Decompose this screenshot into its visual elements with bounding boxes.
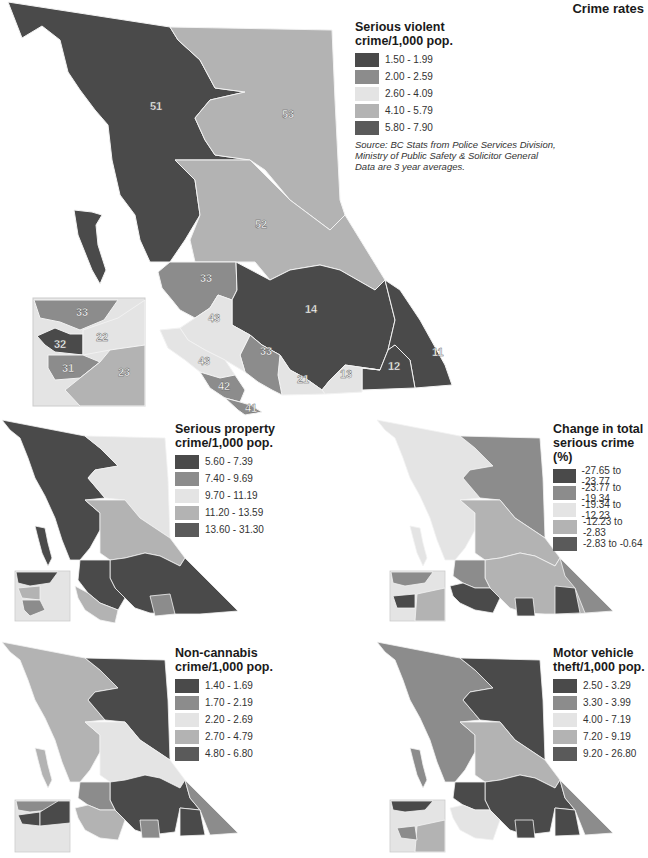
legend-non-cannabis: Non-cannabiscrime/1,000 pop. 1.40 - 1.69…: [175, 646, 273, 762]
legend-item: 7.40 - 9.69: [175, 470, 275, 487]
region-haida[interactable]: [35, 748, 52, 788]
legend-item: 11.20 - 13.59: [175, 504, 275, 521]
legend-item: 2.70 - 4.79: [175, 728, 273, 745]
legend-swatch: [175, 523, 199, 537]
legend-swatch: [175, 455, 199, 469]
label-12: 12: [388, 360, 400, 372]
legend-title: Non-cannabiscrime/1,000 pop.: [175, 646, 273, 674]
legend-swatch: [175, 472, 199, 486]
legend-swatch: [553, 469, 576, 483]
legend-item: 1.70 - 2.19: [175, 694, 273, 711]
label-33-upper: 33: [200, 272, 212, 284]
legend-item: 3.30 - 3.99: [553, 694, 645, 711]
label-42: 42: [218, 380, 230, 392]
region-south-central[interactable]: [515, 598, 535, 616]
legend-swatch: [175, 506, 199, 520]
legend-swatch: [553, 730, 577, 744]
region-south-central[interactable]: [140, 820, 160, 838]
legend-item: 5.60 - 7.39: [175, 453, 275, 470]
legend-swatch: [553, 503, 576, 517]
legend-serious-property: Serious propertycrime/1,000 pop. 5.60 - …: [175, 422, 275, 538]
label-14: 14: [305, 303, 318, 315]
region-south-central[interactable]: [515, 820, 535, 838]
legend-swatch: [175, 730, 199, 744]
legend-item: 4.10 - 5.79: [355, 102, 648, 119]
legend-item: 7.20 - 9.19: [553, 728, 645, 745]
legend-swatch: [355, 121, 379, 135]
legend-item: 2.20 - 2.69: [175, 711, 273, 728]
label-33-lower: 33: [260, 345, 272, 357]
legend-swatch: [553, 537, 577, 551]
legend-swatch: [175, 713, 199, 727]
legend-swatch: [355, 53, 379, 67]
page-title: Crime rates: [572, 1, 644, 16]
legend-change-total-serious: Change in totalserious crime (%) -27.65 …: [553, 422, 648, 552]
legend-swatch: [553, 679, 577, 693]
region-haida[interactable]: [410, 748, 427, 788]
label-11: 11: [432, 346, 444, 358]
legend-item: 1.40 - 1.69: [175, 677, 273, 694]
legend-item: 4.00 - 7.19: [553, 711, 645, 728]
label-43-island: 43: [198, 355, 210, 367]
legend-swatch: [355, 104, 379, 118]
label-13: 13: [340, 368, 352, 380]
label-21: 21: [297, 373, 309, 385]
legend-item: -2.83 to -0.64: [553, 535, 648, 552]
legend-item: -12.23 to -2.83: [553, 518, 648, 535]
legend-swatch: [175, 696, 199, 710]
legend-swatch: [553, 486, 576, 500]
label-43-upper: 43: [208, 312, 220, 324]
inset-lower-mainland: [33, 298, 145, 406]
label-52: 52: [255, 218, 267, 230]
inset-label-32: 32: [54, 338, 66, 350]
legend-item: 13.60 - 31.30: [175, 521, 275, 538]
region-haida-gwaii[interactable]: [74, 210, 106, 284]
legend-swatch: [553, 713, 577, 727]
legend-swatch: [175, 679, 199, 693]
legend-title: Serious violent crime/1,000 pop.: [355, 20, 648, 48]
legend-item: 5.80 - 7.90: [355, 119, 648, 136]
region-haida[interactable]: [410, 526, 427, 566]
legend-title: Serious propertycrime/1,000 pop.: [175, 422, 275, 450]
inset-label-23: 23: [118, 366, 130, 378]
label-51: 51: [150, 100, 162, 112]
legend-item: 9.20 - 26.80: [553, 745, 645, 762]
label-53: 53: [282, 108, 294, 120]
legend-item: 9.70 - 11.19: [175, 487, 275, 504]
inset-label-31: 31: [62, 362, 74, 374]
legend-swatch: [553, 747, 577, 761]
label-41: 41: [245, 402, 257, 414]
legend-item: 2.00 - 2.59: [355, 68, 648, 85]
legend-swatch: [355, 70, 379, 84]
legend-serious-violent: Serious violent crime/1,000 pop. 1.50 - …: [355, 20, 648, 172]
source-note: Source: BC Stats from Police Services Di…: [355, 139, 648, 172]
region-haida[interactable]: [35, 526, 52, 566]
legend-title: Change in totalserious crime (%): [553, 422, 648, 464]
legend-item: 2.60 - 4.09: [355, 85, 648, 102]
legend-swatch: [553, 520, 577, 534]
legend-title: Motor vehicletheft/1,000 pop.: [553, 646, 645, 674]
legend-item: 2.50 - 3.29: [553, 677, 645, 694]
legend-motor-vehicle-theft: Motor vehicletheft/1,000 pop. 2.50 - 3.2…: [553, 646, 645, 762]
legend-swatch: [553, 696, 577, 710]
inset-label-33: 33: [76, 306, 88, 318]
legend-swatch: [175, 489, 199, 503]
legend-swatch: [175, 747, 199, 761]
inset-label-22: 22: [96, 331, 108, 343]
legend-item: 4.80 - 6.80: [175, 745, 273, 762]
legend-item: 1.50 - 1.99: [355, 51, 648, 68]
legend-swatch: [355, 87, 379, 101]
inset-west[interactable]: [393, 594, 415, 608]
